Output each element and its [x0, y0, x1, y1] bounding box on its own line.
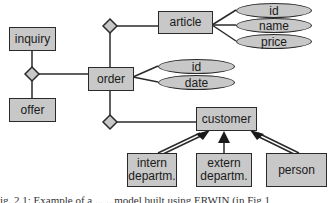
entity-customer: customer: [196, 107, 257, 131]
relationship-diamond-order-article: [103, 19, 117, 33]
attribute-article-id: id: [236, 3, 312, 18]
entity-label: customer: [202, 113, 251, 126]
entity-article: article: [158, 11, 213, 34]
attribute-label: id: [192, 61, 201, 73]
er-diagram: inquiry offer order article customer int…: [0, 0, 329, 203]
entity-label: inquiry: [15, 33, 50, 46]
relationship-diamond-inquiry-offer: [25, 67, 39, 81]
entity-offer: offer: [9, 98, 56, 122]
entity-person: person: [266, 153, 327, 187]
attribute-label: id: [269, 5, 278, 17]
entity-intern-departm: intern departm.: [127, 153, 177, 187]
entity-label: intern departm.: [128, 157, 175, 183]
entity-order: order: [88, 67, 134, 91]
entity-label: article: [169, 16, 201, 29]
attribute-order-date: date: [158, 75, 235, 90]
entity-label: extern departm.: [200, 157, 247, 183]
entity-inquiry: inquiry: [9, 27, 56, 51]
entity-label: order: [97, 73, 125, 86]
entity-label: person: [278, 164, 315, 177]
attribute-label: price: [261, 36, 287, 48]
attribute-article-name: name: [236, 18, 312, 33]
entity-label: offer: [21, 104, 45, 117]
attribute-article-price: price: [236, 34, 312, 49]
relationship-diamond-order-customer: [103, 115, 117, 129]
entity-extern-departm: extern departm.: [196, 153, 252, 187]
attribute-label: name: [259, 20, 289, 32]
attribute-order-id: id: [158, 59, 235, 74]
attribute-label: date: [185, 77, 208, 89]
figure-caption: ig. 2.1: Example of a ... ...model built…: [0, 194, 329, 203]
